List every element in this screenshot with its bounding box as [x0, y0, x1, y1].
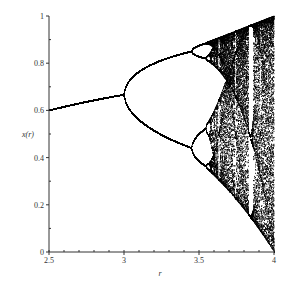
- y-tick-label: 0: [40, 248, 44, 257]
- y-ticks: 00.20.40.60.81: [34, 12, 51, 257]
- bifurcation-chart: 2.533.54 00.20.40.60.81 r x(r): [0, 0, 284, 285]
- y-axis-label: x(r): [21, 130, 34, 139]
- x-tick-label: 4: [272, 256, 276, 265]
- data-points: [49, 16, 275, 252]
- x-axis-label: r: [158, 269, 162, 278]
- y-tick-label: 0.2: [34, 201, 44, 210]
- x-tick-label: 2.5: [44, 256, 54, 265]
- y-tick-label: 0.4: [34, 154, 44, 163]
- y-tick-label: 1: [40, 12, 44, 21]
- y-tick-label: 0.6: [34, 106, 44, 115]
- x-tick-label: 3.5: [194, 256, 204, 265]
- y-tick-label: 0.8: [34, 59, 44, 68]
- x-tick-label: 3: [122, 256, 126, 265]
